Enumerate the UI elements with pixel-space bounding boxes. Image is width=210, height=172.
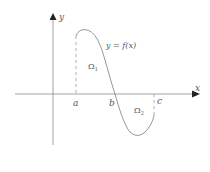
x-axis-label: x [195, 83, 200, 93]
region-omega-1-label: Ω1 [88, 62, 98, 72]
function-area-diagram: y x a b c y = f(x) Ω1 Ω2 [0, 0, 210, 172]
curve-label: y = f(x) [105, 41, 136, 50]
y-axis-arrow-icon [50, 13, 57, 20]
point-c-label: c [157, 96, 162, 106]
point-a-label: a [73, 98, 78, 108]
y-axis-label: y [58, 12, 65, 22]
region-omega-2-label: Ω2 [134, 106, 144, 116]
point-b-label: b [109, 98, 115, 108]
